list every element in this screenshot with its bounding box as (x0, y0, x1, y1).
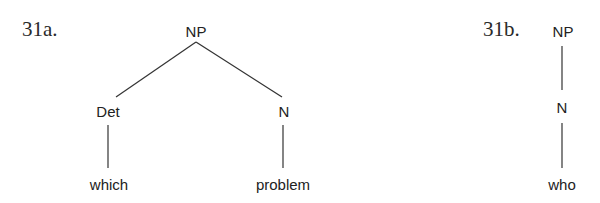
syntax-tree-figure: 31a. NP Det N which problem 31b. NP N wh… (0, 0, 600, 203)
node-n-b: N (557, 100, 568, 115)
node-np-root-b: NP (553, 24, 574, 39)
leaf-who: who (548, 177, 576, 192)
example-label-31a: 31a. (22, 19, 58, 40)
edge-np-det (116, 42, 196, 97)
node-det: Det (96, 104, 119, 119)
edge-np-n (196, 42, 282, 97)
node-n: N (279, 104, 290, 119)
example-label-31b: 31b. (483, 19, 520, 40)
leaf-which: which (90, 177, 128, 192)
leaf-problem: problem (256, 177, 310, 192)
node-np-root: NP (186, 24, 207, 39)
